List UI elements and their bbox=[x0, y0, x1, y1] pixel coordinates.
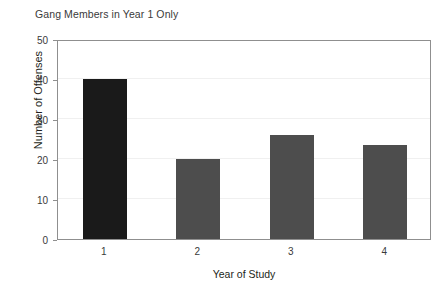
y-tick-label: 0 bbox=[42, 235, 48, 246]
chart-title: Gang Members in Year 1 Only bbox=[35, 8, 178, 20]
bar bbox=[83, 79, 127, 239]
bar bbox=[176, 159, 220, 239]
y-tick-label: 50 bbox=[37, 35, 48, 46]
x-tick-label: 2 bbox=[194, 246, 200, 257]
y-axis: 01020304050 bbox=[0, 40, 57, 240]
bar bbox=[363, 145, 407, 239]
y-tick-label: 10 bbox=[37, 195, 48, 206]
plot-area bbox=[57, 40, 431, 240]
x-tick-label: 4 bbox=[381, 246, 387, 257]
bar-chart-figure: Gang Members in Year 1 Only Number of Of… bbox=[0, 0, 448, 306]
bars-layer bbox=[58, 41, 430, 239]
x-tick-label: 1 bbox=[101, 246, 107, 257]
y-tick-label: 30 bbox=[37, 115, 48, 126]
x-tick-label: 3 bbox=[288, 246, 294, 257]
y-tick-label: 40 bbox=[37, 75, 48, 86]
y-tick-label: 20 bbox=[37, 155, 48, 166]
x-axis: 1234 bbox=[57, 240, 431, 262]
bar bbox=[270, 135, 314, 239]
x-axis-title: Year of Study bbox=[57, 268, 431, 280]
